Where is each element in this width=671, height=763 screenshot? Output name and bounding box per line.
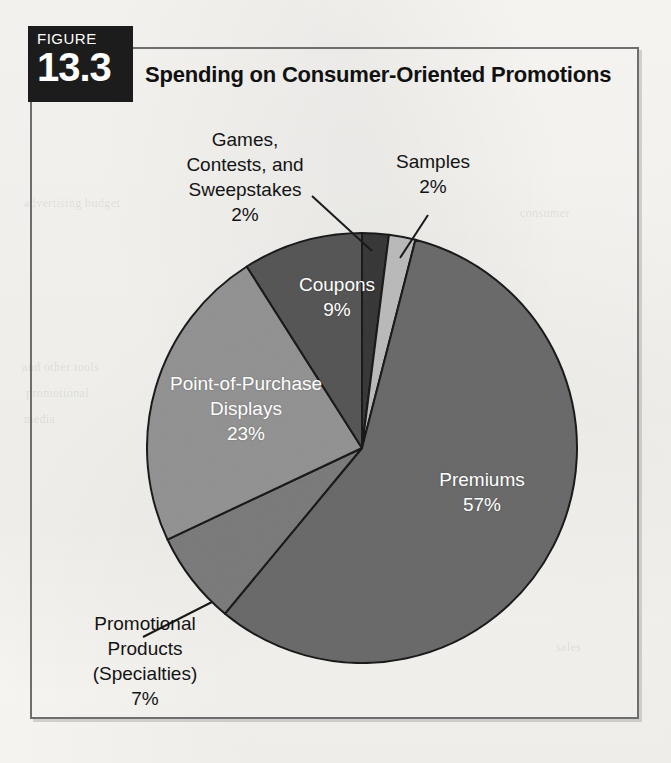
pie-label-promotional-products: Promotional Products (Specialties) 7% xyxy=(40,611,250,711)
pie-label-promotional-percent: 7% xyxy=(40,686,250,711)
pie-label-samples-percent: 2% xyxy=(373,174,493,199)
figure-badge-number: 13.3 xyxy=(37,45,133,89)
pie-label-games-percent: 2% xyxy=(155,202,335,227)
pie-label-games-line1: Games, xyxy=(155,127,335,152)
pie-label-promotional-line2: Products xyxy=(40,636,250,661)
pie-label-pop-line1: Point-of-Purchase xyxy=(146,371,346,396)
pie-label-promotional-line1: Promotional xyxy=(40,611,250,636)
pie-label-games-line2: Contests, and xyxy=(155,152,335,177)
figure-number-badge: FIGURE 13.3 xyxy=(28,26,133,102)
pie-label-coupons-percent: 9% xyxy=(272,297,402,322)
pie-label-coupons-line1: Coupons xyxy=(272,272,402,297)
pie-label-coupons: Coupons 9% xyxy=(272,272,402,322)
pie-label-premiums: Premiums 57% xyxy=(412,467,552,517)
pie-label-premiums-line1: Premiums xyxy=(412,467,552,492)
pie-label-promotional-line3: (Specialties) xyxy=(40,661,250,686)
figure-title: Spending on Consumer-Oriented Promotions xyxy=(145,62,611,88)
pie-label-games: Games, Contests, and Sweepstakes 2% xyxy=(155,127,335,227)
pie-label-pop-line2: Displays xyxy=(146,396,346,421)
pie-label-point-of-purchase: Point-of-Purchase Displays 23% xyxy=(146,371,346,446)
pie-label-premiums-percent: 57% xyxy=(412,492,552,517)
pie-label-samples: Samples 2% xyxy=(373,149,493,199)
pie-label-samples-line1: Samples xyxy=(373,149,493,174)
pie-label-games-line3: Sweepstakes xyxy=(155,177,335,202)
pie-label-pop-percent: 23% xyxy=(146,421,346,446)
